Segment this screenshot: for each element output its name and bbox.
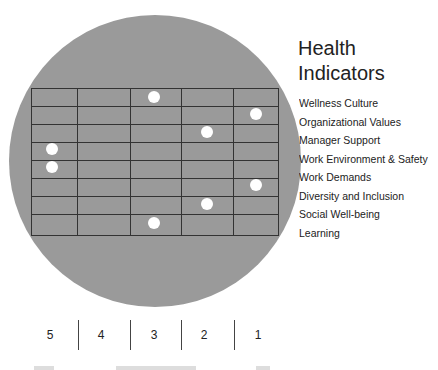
data-point-wellness-culture — [148, 91, 160, 103]
grid-row-divider — [32, 160, 278, 161]
axis-tick-label: 3 — [151, 328, 158, 342]
axis-separator — [130, 320, 131, 350]
chart-title-line-2: Indicators — [298, 61, 385, 86]
axis-separator — [234, 320, 235, 350]
grid-row-divider — [32, 178, 278, 179]
legend-item: Social Well-being — [299, 205, 438, 224]
axis-tick-label: 5 — [47, 328, 54, 342]
chart-title-line-1: Health — [298, 36, 385, 61]
legend: Wellness Culture Organizational Values M… — [299, 94, 438, 242]
grid-row-divider — [32, 124, 278, 125]
truncated-axis-caption — [116, 366, 196, 370]
data-point-work-demands — [46, 161, 58, 173]
axis-tick-label: 4 — [98, 328, 105, 342]
legend-item: Work Environment & Safety — [299, 150, 438, 169]
score-axis: 5 4 3 2 1 — [0, 320, 300, 352]
grid-row-divider — [32, 214, 278, 215]
axis-separator — [78, 320, 79, 350]
axis-separator — [181, 320, 182, 350]
truncated-axis-caption — [256, 366, 270, 370]
axis-tick-label: 2 — [201, 328, 208, 342]
legend-item: Diversity and Inclusion — [299, 187, 438, 206]
legend-item: Work Demands — [299, 168, 438, 187]
legend-item: Wellness Culture — [299, 94, 438, 113]
legend-item: Organizational Values — [299, 113, 438, 132]
legend-item: Learning — [299, 224, 438, 243]
truncated-axis-caption — [34, 366, 54, 370]
legend-item: Manager Support — [299, 131, 438, 150]
data-point-diversity-inclusion — [250, 179, 262, 191]
score-grid — [31, 88, 279, 236]
data-point-manager-support — [201, 126, 213, 138]
data-point-organizational-values — [250, 108, 262, 120]
chart-title: Health Indicators — [298, 36, 385, 86]
grid-row-divider — [32, 142, 278, 143]
grid-row-divider — [32, 106, 278, 107]
data-point-learning — [148, 217, 160, 229]
data-point-social-well-being — [201, 198, 213, 210]
axis-tick-label: 1 — [255, 328, 262, 342]
grid-row-divider — [32, 196, 278, 197]
data-point-work-environment-safety — [46, 143, 58, 155]
